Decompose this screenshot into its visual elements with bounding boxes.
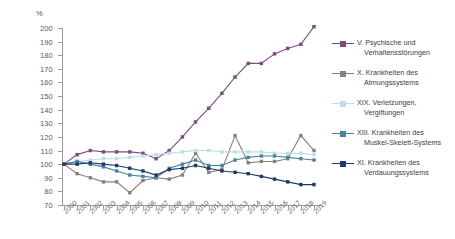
data-point-marker	[181, 135, 184, 138]
data-point-marker	[273, 154, 276, 157]
data-point-marker	[220, 164, 223, 167]
legend-label-line2: Vergiftungen	[357, 108, 417, 118]
data-point-marker	[299, 183, 302, 186]
data-point-marker	[247, 62, 250, 65]
data-point-marker	[273, 160, 276, 163]
data-point-marker	[312, 183, 315, 186]
data-point-marker	[102, 180, 105, 183]
data-point-marker	[115, 157, 118, 160]
data-point-marker	[115, 169, 118, 172]
data-point-marker	[260, 160, 263, 163]
data-point-marker	[102, 150, 105, 153]
data-point-marker	[154, 153, 157, 156]
legend-swatch-icon	[332, 159, 354, 168]
data-point-marker	[286, 180, 289, 183]
data-point-marker	[141, 154, 144, 157]
chart-figure: % 70809010011012013014015016017018019020…	[0, 0, 455, 239]
data-point-marker	[154, 173, 157, 176]
legend-label-line1: XIX. Verletzungen,	[357, 98, 417, 108]
legend-swatch-icon	[332, 129, 354, 138]
y-axis-tick-label: 130	[40, 119, 53, 128]
data-point-marker	[194, 158, 197, 161]
data-point-marker	[89, 161, 92, 164]
data-point-marker	[141, 179, 144, 182]
y-axis-tick-label: 140	[40, 105, 53, 114]
legend-label-line2: Atmungssystems	[357, 78, 419, 88]
legend-label: XIX. Verletzungen,Vergiftungen	[354, 98, 417, 117]
legend-label-line1: X. Krankheiten des	[357, 68, 419, 78]
legend-label: X. Krankheiten desAtmungssystems	[354, 68, 419, 87]
y-axis-tick-label: 70	[44, 201, 53, 210]
chart-legend: V. Psychische undVerhaltensstörungenX. K…	[332, 38, 454, 188]
y-axis-tick-label: 150	[40, 92, 53, 101]
data-point-marker	[168, 168, 171, 171]
y-axis-tick-label: 120	[40, 132, 53, 141]
data-point-marker	[299, 152, 302, 155]
data-point-marker	[299, 43, 302, 46]
data-point-marker	[181, 150, 184, 153]
data-point-marker	[115, 180, 118, 183]
chart-lines	[62, 28, 322, 205]
data-point-marker	[207, 149, 210, 152]
data-point-marker	[128, 150, 131, 153]
data-point-marker	[233, 134, 236, 137]
legend-item-3[interactable]: XIX. Verletzungen,Vergiftungen	[332, 98, 454, 117]
data-point-marker	[181, 167, 184, 170]
data-point-marker	[128, 167, 131, 170]
data-point-marker	[75, 162, 78, 165]
data-point-marker	[273, 177, 276, 180]
data-point-marker	[247, 161, 250, 164]
data-point-marker	[260, 150, 263, 153]
y-axis-tick-label: 170	[40, 64, 53, 73]
data-point-marker	[89, 176, 92, 179]
data-point-marker	[128, 156, 131, 159]
data-point-marker	[312, 153, 315, 156]
legend-label-line2: Verhaltensstörungen	[357, 48, 430, 58]
legend-label: XIII. Krankheiten desMuskel-Skelett-Syst…	[354, 128, 441, 147]
legend-item-4[interactable]: XIII. Krankheiten desMuskel-Skelett-Syst…	[332, 128, 454, 147]
data-point-marker	[89, 149, 92, 152]
legend-label-line2: Verdauungssystems	[357, 168, 429, 178]
data-point-marker	[260, 154, 263, 157]
data-point-marker	[168, 152, 171, 155]
data-point-marker	[207, 171, 210, 174]
y-axis-tick-label: 110	[40, 146, 53, 155]
data-point-marker	[141, 175, 144, 178]
plot-area	[62, 28, 322, 205]
y-axis-tick-label: 190	[40, 37, 53, 46]
legend-label-line1: XIII. Krankheiten des	[357, 128, 441, 138]
data-point-marker	[115, 164, 118, 167]
data-point-marker	[102, 162, 105, 165]
data-point-marker	[181, 173, 184, 176]
legend-swatch-icon	[332, 99, 354, 108]
data-point-marker	[115, 150, 118, 153]
y-axis-unit-label: %	[36, 9, 43, 18]
legend-item-5[interactable]: XI. Krankheiten desVerdauungssystems	[332, 158, 454, 177]
series-1	[62, 25, 315, 166]
legend-label: XI. Krankheiten desVerdauungssystems	[354, 158, 429, 177]
data-point-marker	[247, 150, 250, 153]
data-point-marker	[75, 172, 78, 175]
data-point-marker	[299, 157, 302, 160]
data-point-marker	[141, 169, 144, 172]
legend-label: V. Psychische undVerhaltensstörungen	[354, 38, 430, 57]
legend-label-line2: Muskel-Skelett-Systems	[357, 138, 441, 148]
data-point-marker	[247, 156, 250, 159]
data-point-marker	[207, 107, 210, 110]
data-point-marker	[233, 75, 236, 78]
data-point-marker	[181, 162, 184, 165]
legend-item-2[interactable]: X. Krankheiten desAtmungssystems	[332, 68, 454, 87]
legend-item-1[interactable]: V. Psychische undVerhaltensstörungen	[332, 38, 454, 57]
data-point-marker	[220, 150, 223, 153]
data-point-marker	[194, 164, 197, 167]
data-point-marker	[128, 191, 131, 194]
legend-swatch-icon	[332, 69, 354, 78]
legend-label-line1: V. Psychische und	[357, 38, 430, 48]
data-point-marker	[286, 47, 289, 50]
y-axis-tick	[58, 205, 63, 206]
data-point-marker	[260, 175, 263, 178]
data-point-marker	[194, 120, 197, 123]
series-line	[64, 27, 314, 165]
data-point-marker	[233, 150, 236, 153]
data-point-marker	[260, 62, 263, 65]
